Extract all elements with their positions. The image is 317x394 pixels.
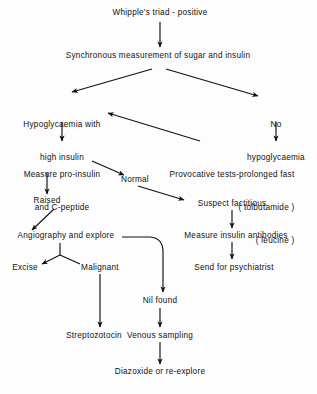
node-angiography-and-explore: Angiography and explore xyxy=(18,231,115,242)
node-whipples-triad-positive: Whipple's triad - positive xyxy=(113,8,208,19)
edge-provocative-to-hypoglycaemia xyxy=(108,113,200,141)
node-measure-insulin-antibodies: Measure insulin antibodies xyxy=(184,231,287,242)
node-send-for-psychiatrist: Send for psychiatrist xyxy=(194,263,273,274)
node-diazoxide-or-re-explore: Diazoxide or re-explore xyxy=(115,367,205,378)
node-provocative-line-1: Provocative tests-prolonged fast xyxy=(170,169,295,180)
node-malignant: Malignant xyxy=(81,263,119,274)
node-nil-found: Nil found xyxy=(143,296,178,307)
node-suspect-factitious: Suspect factitious xyxy=(198,199,267,210)
edge-angiography-to-malignant xyxy=(60,255,80,264)
edge-angiography-to-nil-found xyxy=(122,237,163,292)
edge-synchronous-to-hypoglycaemia xyxy=(72,69,152,92)
node-excise: Excise xyxy=(12,263,38,274)
node-venous-sampling: Venous sampling xyxy=(127,331,193,342)
node-measure-proinsulin-line-1: Measure pro-insulin xyxy=(24,169,101,180)
node-synchronous-measurement: Synchronous measurement of sugar and ins… xyxy=(66,51,250,62)
node-streptozotocin: Streptozotocin xyxy=(66,331,122,342)
node-hypoglycaemia-line-1: Hypoglycaemia with xyxy=(23,119,100,130)
node-measure-proinsulin-c-peptide: Measure pro-insulin and C-peptide xyxy=(24,147,101,235)
edge-synchronous-to-no-hypoglycaemia xyxy=(166,69,258,96)
node-no-hypoglycaemia-line-1: No xyxy=(247,119,305,130)
flowchart-diagram: Whipple's triad - positive Synchronous m… xyxy=(0,0,317,394)
node-raised: Raised xyxy=(34,196,61,207)
node-normal: Normal xyxy=(121,175,149,186)
edge-angiography-to-excise xyxy=(42,255,60,264)
